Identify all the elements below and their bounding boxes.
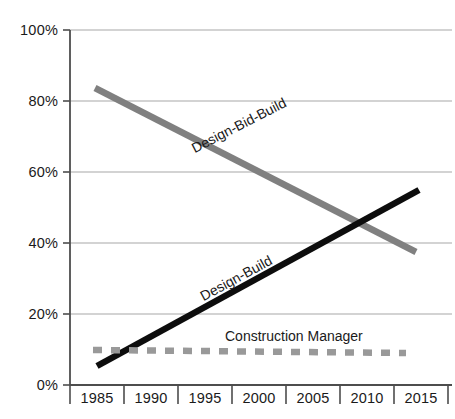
y-axis-ticks: [63, 30, 70, 385]
y-axis-label-20: 20%: [2, 306, 58, 322]
x-axis-label-2010: 2010: [340, 390, 394, 406]
y-axis-label-60: 60%: [2, 164, 58, 180]
line-chart: 100% 80% 60% 40% 20% 0% 1985 1990 1995 2…: [0, 0, 455, 419]
x-axis-label-1985: 1985: [70, 390, 124, 406]
y-axis-label-80: 80%: [2, 93, 58, 109]
series-label-construction-manager: Construction Manager: [225, 328, 363, 344]
y-axis-label-0: 0%: [2, 377, 58, 393]
y-axis-label-100: 100%: [2, 22, 58, 38]
plot-area: [0, 0, 455, 419]
x-axis-label-2005: 2005: [286, 390, 340, 406]
x-axis-label-2015: 2015: [394, 390, 448, 406]
series-line-construction-manager: [93, 350, 406, 353]
x-axis-label-2000: 2000: [232, 390, 286, 406]
y-axis-label-40: 40%: [2, 235, 58, 251]
x-axis-label-1990: 1990: [124, 390, 178, 406]
x-axis-label-1995: 1995: [178, 390, 232, 406]
